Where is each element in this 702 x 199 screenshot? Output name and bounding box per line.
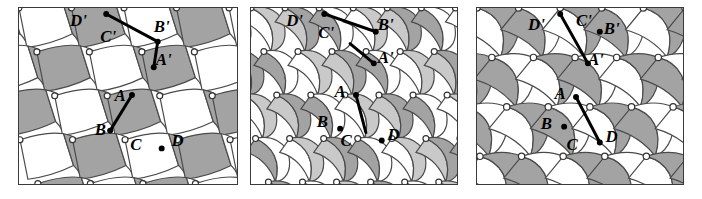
tessellation-figure: D'C'B'A'ABCD D'C'B'A'ABCD D'C'B'A'ABCD — [0, 0, 702, 199]
vertex-marker — [418, 8, 424, 11]
tile — [268, 181, 302, 184]
vertex-marker — [35, 181, 41, 184]
point-marker — [159, 145, 165, 151]
vertex-marker — [316, 8, 322, 11]
vertex-marker — [376, 92, 382, 98]
vertex-marker — [444, 92, 450, 98]
tile — [194, 45, 237, 91]
vertex-marker — [34, 49, 40, 55]
point-label-D: D — [387, 126, 400, 145]
vertex-marker — [402, 179, 408, 184]
point-label-Cprime: C' — [576, 11, 592, 30]
panel-1-canvas: D'C'B'A'ABCD — [19, 8, 237, 184]
point-label-D: D — [605, 127, 618, 146]
vertex-marker — [157, 93, 163, 99]
vertex-marker — [368, 179, 374, 184]
vertex-marker — [87, 181, 93, 184]
point-label-Aprime: A' — [155, 50, 172, 69]
point-label-Bprime: B' — [153, 17, 170, 36]
point-marker — [597, 29, 603, 35]
vertex-marker — [355, 136, 361, 142]
vertex-marker — [515, 8, 521, 11]
vertex-marker — [295, 49, 301, 55]
tile — [195, 177, 237, 184]
point-label-B: B — [94, 120, 106, 139]
vertex-marker — [70, 137, 76, 143]
vertex-marker — [489, 54, 495, 60]
point-label-A: A — [554, 84, 566, 103]
vertex-marker — [308, 92, 314, 98]
tile — [19, 8, 73, 48]
point-label-C: C — [566, 135, 578, 154]
vertex-marker — [431, 49, 437, 55]
vertex-marker — [261, 49, 267, 55]
vertex-marker — [477, 153, 483, 159]
vertex-marker — [191, 49, 197, 55]
vertex-marker — [602, 153, 608, 159]
vertex-marker — [643, 153, 649, 159]
point-marker — [103, 11, 109, 17]
panel-2-canvas: D'C'B'A'ABCD — [251, 8, 457, 184]
point-marker — [573, 94, 579, 100]
vertex-marker — [640, 8, 646, 11]
vertex-marker — [86, 49, 92, 55]
vertex-marker — [227, 137, 233, 143]
vertex-marker — [436, 179, 442, 184]
point-label-C: C — [130, 135, 142, 154]
vertex-marker — [300, 179, 306, 184]
vertex-marker — [504, 104, 510, 110]
point-marker — [107, 128, 113, 134]
point-marker — [557, 11, 563, 17]
tile — [405, 181, 439, 184]
vertex-marker — [397, 49, 403, 55]
point-label-Bprime: B' — [603, 19, 620, 38]
vertex-marker — [174, 8, 180, 11]
vertex-marker — [530, 54, 536, 60]
panel-3-canvas: D'C'B'A'ABCD — [477, 8, 683, 184]
vertex-marker — [139, 49, 145, 55]
point-label-Dprime: D' — [527, 15, 545, 34]
vertex-marker — [19, 137, 23, 143]
vertex-marker — [613, 54, 619, 60]
vertex-marker — [670, 104, 676, 110]
point-label-D: D — [170, 131, 183, 150]
point-marker — [353, 92, 359, 98]
vertex-marker — [104, 93, 110, 99]
vertex-marker — [140, 181, 146, 184]
vertex-marker — [560, 153, 566, 159]
vertex-marker — [192, 181, 198, 184]
point-label-C: C — [340, 131, 352, 150]
point-label-Bprime: B' — [377, 15, 394, 34]
vertex-marker — [265, 179, 271, 184]
point-marker — [561, 124, 567, 130]
vertex-marker — [321, 136, 327, 142]
vertex-marker — [121, 8, 127, 11]
vertex-marker — [587, 104, 593, 110]
point-marker — [597, 140, 603, 146]
point-label-Cprime: C' — [100, 27, 116, 46]
point-label-Dprime: D' — [285, 11, 303, 30]
vertex-marker — [599, 8, 605, 11]
vertex-marker — [572, 54, 578, 60]
point-label-A: A — [334, 82, 346, 101]
point-label-B: B — [540, 114, 552, 133]
vertex-marker — [518, 153, 524, 159]
tiling-panel-left: D'C'B'A'ABCD — [18, 7, 238, 185]
vertex-marker — [274, 92, 280, 98]
vertex-marker — [557, 8, 563, 11]
tile — [212, 89, 237, 135]
point-label-Dprime: D' — [69, 11, 87, 30]
tile — [371, 181, 405, 184]
point-label-Cprime: C' — [318, 23, 334, 42]
vertex-marker — [226, 8, 232, 11]
vertex-marker — [423, 136, 429, 142]
vertex-marker — [350, 8, 356, 11]
tile — [303, 181, 337, 184]
vertex-marker — [655, 54, 661, 60]
vertex-marker — [628, 104, 634, 110]
tile-group — [477, 8, 683, 184]
point-marker — [155, 39, 161, 45]
vertex-marker — [52, 93, 58, 99]
vertex-marker — [545, 104, 551, 110]
point-marker — [321, 11, 327, 17]
